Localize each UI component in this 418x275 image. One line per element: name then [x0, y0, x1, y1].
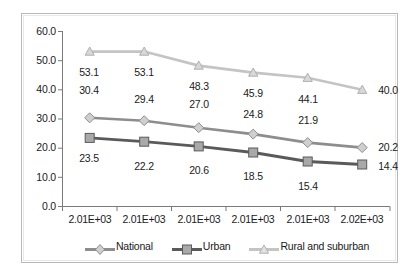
y-tick-label: 30.0	[22, 112, 56, 124]
x-tick-label: 2.01E+03	[171, 213, 227, 225]
legend-item-rural-and-suburban[interactable]: Rural and suburban	[249, 240, 369, 252]
chart-legend: National Urban Rural and suburban	[62, 237, 392, 255]
data-label-urban: 20.6	[182, 164, 216, 176]
y-tick-label: 10.0	[22, 171, 56, 183]
x-tick-label: 2.01E+03	[116, 213, 172, 225]
data-label-urban: 15.4	[291, 180, 325, 192]
data-label-urban: 23.5	[72, 152, 106, 164]
y-tick-label: 60.0	[22, 25, 56, 37]
data-label-rural: 44.1	[291, 93, 325, 105]
data-label-national: 27.0	[182, 98, 216, 110]
x-tick-label: 2.02E+03	[334, 213, 390, 225]
data-label-urban: 14.4	[371, 160, 405, 172]
legend-label-rural-and-suburban: Rural and suburban	[280, 240, 369, 252]
data-label-urban: 22.2	[127, 160, 161, 172]
y-axis-ticks	[58, 32, 63, 207]
data-label-rural: 48.3	[182, 80, 216, 92]
data-label-rural: 45.9	[236, 87, 270, 99]
y-tick-label: 40.0	[22, 83, 56, 95]
y-tick-label: 20.0	[22, 141, 56, 153]
x-tick-label: 2.01E+03	[280, 213, 336, 225]
data-label-rural: 53.1	[127, 66, 161, 78]
data-label-rural: 40.0	[371, 84, 405, 96]
legend-label-urban: Urban	[203, 240, 231, 252]
data-label-national: 24.8	[236, 108, 270, 120]
x-tick-label: 2.01E+03	[62, 213, 118, 225]
x-tick-label: 2.01E+03	[225, 213, 281, 225]
data-label-national: 29.4	[127, 93, 161, 105]
data-label-rural: 53.1	[72, 66, 106, 78]
legend-item-urban[interactable]: Urban	[172, 240, 231, 252]
legend-marker-diamond-icon	[85, 241, 115, 252]
legend-item-national[interactable]: National	[85, 240, 153, 252]
legend-marker-square-icon	[172, 241, 202, 252]
x-axis-ticks	[63, 207, 391, 212]
y-tick-label: 0.0	[22, 200, 56, 212]
legend-marker-triangle-icon	[249, 241, 279, 252]
line-chart-plot	[0, 0, 418, 275]
data-label-national: 20.2	[371, 141, 405, 153]
data-label-national: 30.4	[72, 84, 106, 96]
data-label-urban: 18.5	[236, 170, 270, 182]
data-label-national: 21.9	[291, 114, 325, 126]
y-tick-label: 50.0	[22, 54, 56, 66]
legend-label-national: National	[116, 240, 153, 252]
